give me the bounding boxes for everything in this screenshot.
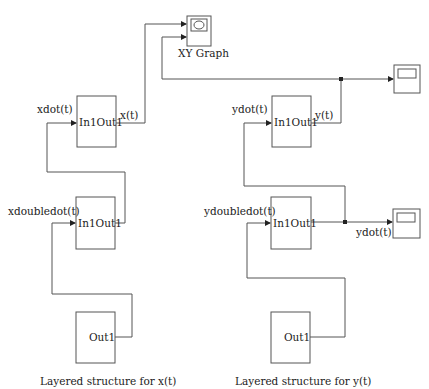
left-block-1-label: In1Out1 xyxy=(79,117,123,128)
x-label: x(t) xyxy=(120,110,138,121)
xdot-label: xdot(t) xyxy=(37,104,73,115)
left-block-3-label: Out1 xyxy=(89,332,115,343)
right-block-2-label: In1Out1 xyxy=(273,218,317,229)
left-block-2-label: In1Out1 xyxy=(78,218,122,229)
ydot-label: ydot(t) xyxy=(232,104,268,115)
right-caption: Layered structure for y(t) xyxy=(235,376,371,387)
y-label: y(t) xyxy=(315,110,333,121)
right-block-1-label: In1Out1 xyxy=(274,117,318,128)
xdoubledot-label: xdoubledot(t) xyxy=(8,206,80,217)
split-dot-y xyxy=(339,77,343,81)
left-caption: Layered structure for x(t) xyxy=(40,376,176,387)
xy-graph-label: XY Graph xyxy=(178,48,229,59)
scope-icon[interactable] xyxy=(393,209,420,238)
scope-icon[interactable] xyxy=(394,65,420,93)
split-dot-ydot xyxy=(343,220,347,224)
xy-graph-icon[interactable] xyxy=(187,16,211,46)
right-block-3-label: Out1 xyxy=(284,332,310,343)
ydoubledot-label: ydoubledot(t) xyxy=(204,206,276,217)
ydot-output-label: ydot(t) xyxy=(356,227,392,238)
